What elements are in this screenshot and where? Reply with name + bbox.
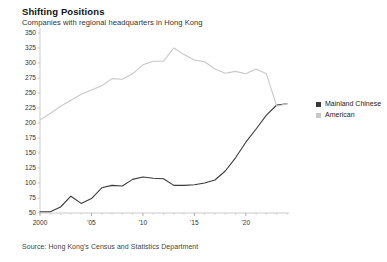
y-tick-label: 350	[14, 29, 36, 36]
y-tick-label: 75	[14, 194, 36, 201]
x-tick-label: '05	[78, 219, 104, 226]
chart-figure: Shifting Positions Companies with region…	[0, 0, 387, 262]
y-tick-label: 175	[14, 134, 36, 141]
chart-legend: Mainland Chinese American	[316, 100, 381, 122]
y-tick-label: 300	[14, 59, 36, 66]
series-line-american	[40, 48, 287, 120]
legend-label-mainland-chinese: Mainland Chinese	[325, 100, 381, 108]
y-tick-label: 225	[14, 104, 36, 111]
series-line-mainland-chinese	[40, 104, 287, 212]
x-tick-label: 2000	[27, 219, 53, 226]
legend-swatch-mainland-chinese	[316, 102, 321, 107]
x-tick-label: '20	[233, 219, 259, 226]
y-tick-label: 125	[14, 164, 36, 171]
legend-item-mainland-chinese[interactable]: Mainland Chinese	[316, 100, 381, 108]
y-tick-label: 50	[14, 209, 36, 216]
y-tick-label: 275	[14, 74, 36, 81]
y-tick-label: 200	[14, 119, 36, 126]
y-tick-label: 325	[14, 44, 36, 51]
y-tick-label: 150	[14, 149, 36, 156]
source-note: Source: Hong Kong's Census and Statistic…	[22, 243, 198, 250]
legend-swatch-american	[316, 113, 321, 118]
x-tick-label: '10	[130, 219, 156, 226]
legend-label-american: American	[325, 111, 355, 119]
x-tick-label: '15	[181, 219, 207, 226]
legend-item-american[interactable]: American	[316, 111, 381, 119]
y-tick-label: 100	[14, 179, 36, 186]
y-tick-label: 250	[14, 89, 36, 96]
